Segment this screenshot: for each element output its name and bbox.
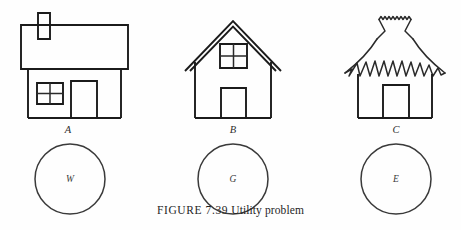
house-a-chimney (38, 13, 50, 39)
house-b-door (221, 88, 246, 118)
house-a-label: A (64, 124, 72, 135)
house-c: C (345, 17, 445, 136)
house-b: B (185, 21, 281, 135)
house-c-neck-left (377, 20, 385, 40)
house-a-door (71, 81, 97, 118)
house-c-thatch-eave-zigzag (345, 61, 445, 76)
figure-caption-text: Utility problem (231, 204, 304, 216)
figure-container: A B (0, 0, 461, 230)
house-a: A (21, 13, 128, 135)
figure-drawing: A B (0, 0, 461, 230)
house-c-door (383, 85, 409, 118)
house-c-label: C (392, 124, 400, 135)
utility-e-label: E (392, 174, 399, 184)
figure-caption-label: FIGURE 7.39 (157, 204, 228, 216)
utility-w-label: W (66, 174, 75, 184)
figure-caption: FIGURE 7.39 Utility problem (0, 204, 461, 216)
house-c-roof-cap-zigzag (379, 17, 411, 20)
utility-g-label: G (230, 174, 237, 184)
house-b-label: B (230, 124, 237, 135)
house-c-neck-right (405, 20, 413, 40)
